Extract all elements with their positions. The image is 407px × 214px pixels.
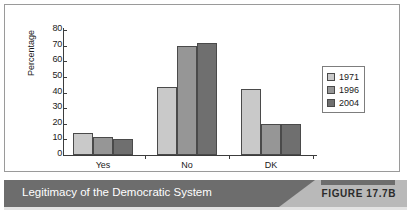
y-axis-tick-label: 30 <box>52 101 62 111</box>
bar-yes-1996 <box>93 137 113 155</box>
figure-number-badge: FIGURE 17.7B <box>322 188 396 199</box>
x-axis-tick-label: Yes <box>73 160 133 170</box>
legend-label-1971: 1971 <box>339 72 359 82</box>
y-axis-tick-label: 50 <box>52 70 62 80</box>
legend-swatch-2004 <box>327 99 335 107</box>
y-axis-title: Percentage <box>26 8 36 98</box>
caption-bar: Legitimacy of the Democratic System FIGU… <box>4 180 407 207</box>
bar-no-2004 <box>197 43 217 155</box>
figure-caption: Legitimacy of the Democratic System <box>22 186 212 198</box>
bar-yes-2004 <box>113 139 133 155</box>
chart-frame: Percentage 01020304050607080 YesNoDK 197… <box>4 4 400 172</box>
x-axis-line <box>63 155 317 156</box>
y-axis-tick-label: 70 <box>52 39 62 49</box>
bar-no-1971 <box>157 87 177 155</box>
y-axis-tick-label: 80 <box>52 23 62 33</box>
x-axis-tick-label: No <box>157 160 217 170</box>
legend-swatch-1971 <box>327 73 335 81</box>
y-axis-tick-label: 20 <box>52 117 62 127</box>
legend-swatch-1996 <box>327 86 335 94</box>
y-axis-tick-label: 0 <box>57 148 62 158</box>
x-axis-tick-mark <box>313 155 314 159</box>
bar-no-1996 <box>177 46 197 155</box>
chart-legend: 197119962004 <box>322 66 365 113</box>
legend-item-1996: 1996 <box>327 83 359 96</box>
caption-bar-shadow <box>4 207 407 210</box>
x-axis-tick-mark <box>229 155 230 159</box>
x-axis-tick-mark <box>145 155 146 159</box>
bar-dk-1996 <box>261 124 281 155</box>
y-axis-tick-label: 60 <box>52 54 62 64</box>
legend-label-1996: 1996 <box>339 85 359 95</box>
bar-dk-2004 <box>281 124 301 155</box>
legend-item-2004: 2004 <box>327 96 359 109</box>
y-axis-tick-mark <box>63 155 67 156</box>
bar-yes-1971 <box>73 133 93 155</box>
x-axis-tick-label: DK <box>241 160 301 170</box>
plot-area <box>63 30 315 155</box>
legend-label-2004: 2004 <box>339 98 359 108</box>
figure-badge-tab <box>321 180 395 185</box>
bar-dk-1971 <box>241 89 261 155</box>
y-axis-tick-label: 10 <box>52 132 62 142</box>
figure-container: Percentage 01020304050607080 YesNoDK 197… <box>0 0 407 214</box>
legend-item-1971: 1971 <box>327 70 359 83</box>
y-axis-tick-label: 40 <box>52 86 62 96</box>
